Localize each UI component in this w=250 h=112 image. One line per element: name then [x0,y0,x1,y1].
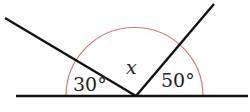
angle-diagram: 30° x 50° [0,0,250,112]
left-angle-label: 30° [73,73,107,95]
middle-angle-label: x [126,56,137,78]
right-angle-label: 50° [161,69,195,91]
